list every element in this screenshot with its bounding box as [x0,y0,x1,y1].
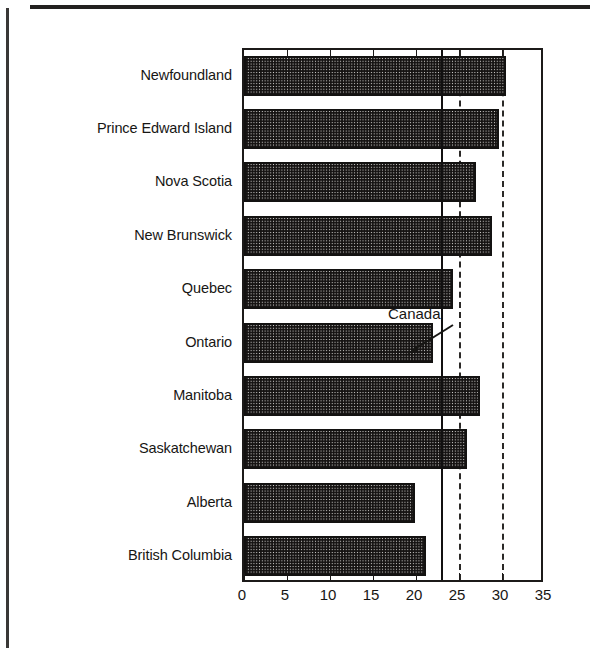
x-tick-5 [287,573,288,580]
category-label: Alberta [187,494,232,510]
category-label: Newfoundland [140,67,232,83]
bar-quebec[interactable] [244,269,453,309]
x-tick-20 [416,573,417,580]
category-label: Quebec [182,280,232,296]
category-label: Nova Scotia [155,173,232,189]
x-tick-30 [502,573,503,580]
x-tick-top-5 [287,50,288,57]
category-label: New Brunswick [134,227,232,243]
x-tick-top-25 [459,50,460,57]
bar-saskatchewan[interactable] [244,429,467,469]
gridline-30 [502,50,504,580]
x-axis-tick-labels: 0 5 10 15 20 25 30 35 [242,586,543,616]
x-tick-25 [459,573,460,580]
x-tick-10 [330,573,331,580]
bar-alberta[interactable] [244,483,415,523]
x-tick-15 [373,573,374,580]
x-tick-label: 30 [492,586,509,603]
x-tick-label: 15 [363,586,380,603]
x-tick-label: 5 [281,586,289,603]
category-label: British Columbia [128,547,232,563]
x-tick-label: 10 [320,586,337,603]
category-label: Prince Edward Island [97,120,232,136]
bar-prince-edward-island[interactable] [244,109,499,149]
x-tick-top-10 [330,50,331,57]
x-tick-label: 35 [535,586,552,603]
x-tick-top-20 [416,50,417,57]
bar-british-columbia[interactable] [244,536,426,576]
category-label: Saskatchewan [139,440,232,456]
x-tick-top-30 [502,50,503,57]
x-tick-0 [244,573,245,580]
bar-new-brunswick[interactable] [244,216,492,256]
x-tick-label: 0 [238,586,246,603]
bar-manitoba[interactable] [244,376,480,416]
x-tick-top-15 [373,50,374,57]
category-label: Ontario [185,334,232,350]
chart-page: Newfoundland Prince Edward Island Nova S… [0,0,596,653]
bar-newfoundland[interactable] [244,56,506,96]
x-tick-label: 25 [449,586,466,603]
category-axis-labels: Newfoundland Prince Edward Island Nova S… [0,48,236,582]
canada-annotation-label: Canada [388,305,441,322]
horizontal-bar-chart: Newfoundland Prince Edward Island Nova S… [0,0,596,653]
x-tick-label: 20 [406,586,423,603]
canada-annotation-arrow [399,322,455,358]
canada-reference-line [441,50,443,580]
category-label: Manitoba [173,387,232,403]
